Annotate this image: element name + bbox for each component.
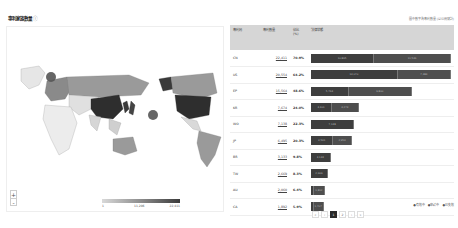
- legend-min: 1: [102, 204, 104, 208]
- share-percent: 22.3%: [290, 116, 308, 133]
- page-1-button[interactable]: 1: [330, 211, 337, 218]
- office-code: BR: [230, 149, 260, 166]
- patent-count-link[interactable]: 6,495: [260, 133, 290, 150]
- zoom-out-button[interactable]: -: [11, 198, 16, 205]
- legal-status-bars: 7,138: [308, 116, 454, 133]
- status-bar-segment[interactable]: 3,133: [311, 153, 331, 162]
- page-2-button[interactable]: 2: [339, 211, 346, 218]
- patent-count-link[interactable]: 15,564: [260, 83, 290, 100]
- prev-page-button[interactable]: ‹: [321, 211, 328, 218]
- table-row: JP6,49520.3%3,5412,954: [230, 133, 454, 150]
- zoom-in-button[interactable]: +: [11, 191, 16, 198]
- header-pct[interactable]: 佔比 (%): [290, 25, 308, 50]
- patent-count-link[interactable]: 7,138: [260, 116, 290, 133]
- office-code: TW: [230, 166, 260, 183]
- office-code: JP: [230, 133, 260, 150]
- share-percent: 6.4%: [290, 182, 308, 199]
- legal-status-bars: 3,4014,273: [308, 100, 454, 117]
- next-page-button[interactable]: ›: [348, 211, 355, 218]
- legend-expired[interactable]: ●已失效: [442, 203, 454, 207]
- map-color-legend: 1 11,206 22,411: [102, 199, 180, 210]
- legend-pending[interactable]: ●申請中: [428, 203, 440, 207]
- table-row: AU2,0606.4%1,812: [230, 182, 454, 199]
- source-note: 圖中數字為專利數量 (以公開號計): [409, 17, 454, 21]
- share-percent: 9.8%: [290, 149, 308, 166]
- header-office[interactable]: 專利局: [230, 25, 260, 50]
- legend-active[interactable]: ●有效中: [413, 203, 425, 207]
- office-code: CA: [230, 199, 260, 216]
- legal-status-bars: 13,0707,484: [308, 67, 454, 84]
- office-code: AU: [230, 182, 260, 199]
- office-code: KR: [230, 100, 260, 117]
- status-bar-segment[interactable]: 7,484: [398, 70, 451, 79]
- status-bar-segment[interactable]: 5,764: [311, 87, 349, 96]
- office-code: EP: [230, 83, 260, 100]
- status-bar-segment[interactable]: 2,954: [333, 136, 351, 145]
- status-bar-segment[interactable]: 3,401: [311, 103, 332, 112]
- status-bar-segment[interactable]: 4,273: [332, 103, 359, 112]
- office-code: CN: [230, 50, 260, 67]
- table-row: WO7,13822.3%7,138: [230, 116, 454, 133]
- map-bubble-ep: [46, 72, 56, 82]
- status-bar-segment[interactable]: 2,669: [311, 169, 328, 178]
- world-map[interactable]: [9, 63, 223, 171]
- status-bar-segment[interactable]: 13,070: [311, 70, 398, 79]
- table-row: KR7,67424.0%3,4014,273: [230, 100, 454, 117]
- table-row: BR3,1339.8%3,133: [230, 149, 454, 166]
- share-percent: 24.0%: [290, 100, 308, 117]
- patent-count-link[interactable]: 2,060: [260, 182, 290, 199]
- share-percent: 70.9%: [290, 50, 308, 67]
- world-map-panel: + - 1 11,206 22,411: [6, 26, 224, 212]
- patent-count-link[interactable]: 1,892: [260, 199, 290, 216]
- map-bubble-wo: [148, 110, 158, 120]
- legal-status-bars: 2,669: [308, 166, 454, 183]
- share-percent: 64.2%: [290, 67, 308, 84]
- patent-office-table: 專利局 專利數量 佔比 (%) 法律狀態 CN22,41170.9%10,865…: [230, 25, 454, 216]
- office-code: US: [230, 67, 260, 84]
- status-bar-segment[interactable]: 9,800: [349, 87, 412, 96]
- legal-status-bars: 3,5412,954: [308, 133, 454, 150]
- page-title: 專利家族數量ⓘ: [8, 15, 37, 21]
- share-percent: 5.9%: [290, 199, 308, 216]
- share-percent: 48.6%: [290, 83, 308, 100]
- patent-count-link[interactable]: 3,133: [260, 149, 290, 166]
- header-legal-status: 法律狀態: [308, 25, 454, 50]
- header-count[interactable]: 專利數量: [260, 25, 290, 50]
- legend-max: 22,411: [170, 204, 181, 208]
- legal-status-bars: 1,812: [308, 182, 454, 199]
- share-percent: 8.3%: [290, 166, 308, 183]
- legal-status-legend: ●有效中 ●申請中 ●已失效: [411, 203, 454, 207]
- table-row: EP15,56448.6%5,7649,800: [230, 83, 454, 100]
- status-bar-segment[interactable]: 7,138: [311, 120, 354, 129]
- patent-family-page: 專利家族數量ⓘ 圖中數字為專利數量 (以公開號計): [0, 0, 458, 228]
- office-code: WO: [230, 116, 260, 133]
- table-row: TW2,6698.3%2,669: [230, 166, 454, 183]
- legend-gradient: [102, 199, 180, 203]
- legal-status-bars: 10,86511,546: [308, 50, 454, 67]
- legal-status-bars: 3,133: [308, 149, 454, 166]
- legend-mid: 11,206: [134, 204, 145, 208]
- pagination: « ‹ 1 2 › »: [312, 211, 364, 218]
- status-bar-segment[interactable]: 1,707: [314, 202, 324, 211]
- patent-office-table-panel: 專利局 專利數量 佔比 (%) 法律狀態 CN22,41170.9%10,865…: [230, 25, 454, 216]
- share-percent: 20.3%: [290, 133, 308, 150]
- status-bar-segment[interactable]: 1,812: [314, 186, 325, 195]
- table-row: CN22,41170.9%10,86511,546: [230, 50, 454, 67]
- table-row: US20,55464.2%13,0707,484: [230, 67, 454, 84]
- patent-count-link[interactable]: 7,674: [260, 100, 290, 117]
- status-bar-segment[interactable]: 3,541: [311, 136, 333, 145]
- map-zoom-control: + -: [10, 190, 17, 206]
- info-icon[interactable]: ⓘ: [33, 16, 37, 21]
- patent-count-link[interactable]: 20,554: [260, 67, 290, 84]
- patent-count-link[interactable]: 22,411: [260, 50, 290, 67]
- patent-count-link[interactable]: 2,669: [260, 166, 290, 183]
- last-page-button[interactable]: »: [357, 211, 364, 218]
- first-page-button[interactable]: «: [312, 211, 319, 218]
- legal-status-bars: 5,7649,800: [308, 83, 454, 100]
- status-bar-segment[interactable]: 10,865: [311, 54, 374, 63]
- status-bar-segment[interactable]: 11,546: [374, 54, 451, 63]
- table-header-row: 專利局 專利數量 佔比 (%) 法律狀態: [230, 25, 454, 50]
